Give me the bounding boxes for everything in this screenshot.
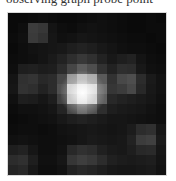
pixel [77, 104, 87, 114]
pixel [28, 23, 38, 33]
pixel [117, 155, 127, 165]
pixel [117, 54, 127, 64]
pixel [156, 13, 166, 23]
pixel [48, 135, 58, 145]
pixel [127, 145, 137, 155]
pixel [57, 165, 67, 175]
pixel [57, 64, 67, 74]
pixel [38, 94, 48, 104]
pixel [8, 104, 18, 114]
pixel [18, 155, 28, 165]
pixel [156, 155, 166, 165]
pixel [97, 74, 107, 84]
pixel [87, 124, 97, 134]
pixel [57, 23, 67, 33]
pixel [87, 104, 97, 114]
pixel [57, 104, 67, 114]
pixel [107, 64, 117, 74]
pixel [97, 84, 107, 94]
pixel [107, 165, 117, 175]
pixel [48, 165, 58, 175]
pixel [156, 114, 166, 124]
pixel [97, 135, 107, 145]
pixel [57, 155, 67, 165]
pixel [57, 94, 67, 104]
pixel [18, 64, 28, 74]
pixel [156, 165, 166, 175]
pixel [87, 64, 97, 74]
pixel [87, 43, 97, 53]
pixel [146, 104, 156, 114]
pixel [117, 64, 127, 74]
pixel [107, 145, 117, 155]
pixel [28, 64, 38, 74]
pixel [38, 135, 48, 145]
pixel [18, 94, 28, 104]
pixel [127, 33, 137, 43]
pixel [87, 155, 97, 165]
pixel [18, 13, 28, 23]
pixel [28, 84, 38, 94]
pixel [156, 124, 166, 134]
pixel [48, 13, 58, 23]
pixel [67, 124, 77, 134]
pixel [117, 23, 127, 33]
pixel [57, 145, 67, 155]
pixel [67, 43, 77, 53]
pixel [87, 13, 97, 23]
pixel [28, 124, 38, 134]
pixel [156, 33, 166, 43]
pixel [97, 104, 107, 114]
pixel [77, 114, 87, 124]
pixel [28, 165, 38, 175]
pixel [127, 74, 137, 84]
pixel [18, 114, 28, 124]
pixel [18, 23, 28, 33]
pixel [57, 114, 67, 124]
pixel [117, 145, 127, 155]
pixel [107, 33, 117, 43]
pixel [136, 155, 146, 165]
pixel [146, 64, 156, 74]
pixel [38, 64, 48, 74]
pixel [136, 43, 146, 53]
pixel [28, 114, 38, 124]
pixel [87, 74, 97, 84]
pixel [28, 33, 38, 43]
pixel [156, 94, 166, 104]
pixel [18, 165, 28, 175]
pixel [146, 155, 156, 165]
pixel [8, 124, 18, 134]
pixel [117, 124, 127, 134]
pixel [38, 104, 48, 114]
pixel [67, 54, 77, 64]
pixel [67, 145, 77, 155]
pixel [8, 165, 18, 175]
pixel [77, 155, 87, 165]
pixel [107, 124, 117, 134]
pixel [48, 84, 58, 94]
pixel [107, 43, 117, 53]
pixel [127, 114, 137, 124]
pixel [136, 135, 146, 145]
pixel [117, 165, 127, 175]
pixel [67, 33, 77, 43]
pixel [48, 124, 58, 134]
pixel [107, 135, 117, 145]
pixel [117, 94, 127, 104]
pixel [156, 135, 166, 145]
pixel [38, 23, 48, 33]
pixel [136, 74, 146, 84]
pixel [77, 135, 87, 145]
pixel [127, 43, 137, 53]
image-caption: observing graph probe point [6, 0, 153, 7]
pixel [28, 13, 38, 23]
pixel [77, 64, 87, 74]
pixel [146, 43, 156, 53]
pixel [8, 84, 18, 94]
pixel [8, 43, 18, 53]
pixel [57, 74, 67, 84]
pixel [18, 84, 28, 94]
pixel [136, 104, 146, 114]
pixel [127, 135, 137, 145]
